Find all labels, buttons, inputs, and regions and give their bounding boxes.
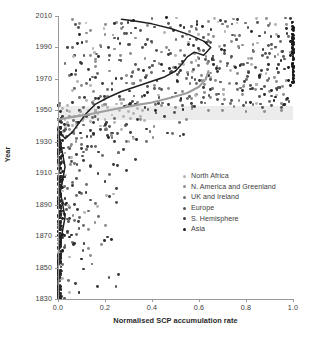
y-tick-label: 1950 bbox=[4, 106, 52, 114]
legend-item[interactable]: N. America and Greenland bbox=[183, 182, 276, 193]
y-axis-line bbox=[58, 16, 59, 299]
gray-trend-curve bbox=[58, 71, 208, 120]
y-tick-label: 1970 bbox=[4, 75, 52, 83]
x-tick-label: 0.0 bbox=[44, 304, 72, 312]
x-tick-mark bbox=[199, 299, 200, 302]
y-tick-mark bbox=[55, 299, 58, 300]
legend-marker-icon bbox=[183, 175, 186, 178]
trend-lines-layer bbox=[58, 16, 293, 299]
x-axis-title: Normalised SCP accumulation rate bbox=[58, 316, 293, 325]
legend-item[interactable]: North Africa bbox=[183, 171, 276, 182]
y-tick-mark bbox=[55, 173, 58, 174]
x-tick-mark bbox=[152, 299, 153, 302]
y-tick-mark bbox=[55, 268, 58, 269]
y-tick-mark bbox=[55, 142, 58, 143]
legend-marker-icon bbox=[183, 217, 186, 220]
legend-item[interactable]: Europe bbox=[183, 203, 276, 214]
x-tick-label: 0.8 bbox=[232, 304, 260, 312]
y-tick-label: 1850 bbox=[4, 264, 52, 272]
dark-rising-curve bbox=[58, 19, 211, 138]
y-tick-label: 1930 bbox=[4, 138, 52, 146]
y-tick-mark bbox=[55, 16, 58, 17]
y-tick-label: 1830 bbox=[4, 295, 52, 303]
y-tick-label: 1890 bbox=[4, 201, 52, 209]
legend-item-label: Asia bbox=[191, 225, 205, 233]
y-tick-mark bbox=[55, 236, 58, 237]
y-tick-mark bbox=[55, 205, 58, 206]
y-tick-mark bbox=[55, 47, 58, 48]
legend-item-label: North Africa bbox=[191, 172, 229, 180]
y-tick-label: 2010 bbox=[4, 12, 52, 20]
y-tick-mark bbox=[55, 79, 58, 80]
x-tick-mark bbox=[246, 299, 247, 302]
x-tick-mark bbox=[293, 299, 294, 302]
legend-item[interactable]: S. Hemisphere bbox=[183, 213, 276, 224]
y-tick-label: 1990 bbox=[4, 43, 52, 51]
x-tick-label: 0.4 bbox=[138, 304, 166, 312]
legend-marker-icon bbox=[183, 196, 186, 199]
chart-legend: North AfricaN. America and GreenlandUK a… bbox=[183, 171, 276, 235]
legend-marker-icon bbox=[183, 228, 186, 231]
legend-item-label: Europe bbox=[191, 204, 214, 212]
legend-marker-icon bbox=[183, 185, 186, 188]
legend-item-label: S. Hemisphere bbox=[191, 215, 239, 223]
x-tick-label: 1.0 bbox=[279, 304, 307, 312]
x-tick-label: 0.2 bbox=[91, 304, 119, 312]
y-tick-mark bbox=[55, 110, 58, 111]
dark-trend-curve bbox=[58, 129, 65, 293]
legend-item-label: UK and Ireland bbox=[191, 193, 239, 201]
x-tick-mark bbox=[105, 299, 106, 302]
legend-item[interactable]: Asia bbox=[183, 224, 276, 235]
y-tick-label: 1870 bbox=[4, 232, 52, 240]
plot-area bbox=[58, 16, 293, 299]
legend-marker-icon bbox=[183, 207, 186, 210]
chart-figure: Year 18301850187018901910193019501970199… bbox=[0, 0, 311, 337]
legend-item-label: N. America and Greenland bbox=[191, 183, 276, 191]
x-axis-line bbox=[58, 299, 293, 300]
legend-item[interactable]: UK and Ireland bbox=[183, 192, 276, 203]
x-tick-label: 0.6 bbox=[185, 304, 213, 312]
x-tick-mark bbox=[58, 299, 59, 302]
y-tick-label: 1910 bbox=[4, 169, 52, 177]
